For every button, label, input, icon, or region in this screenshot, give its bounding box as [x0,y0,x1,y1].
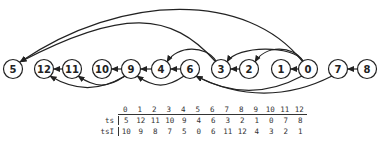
node-6: 6 [181,60,200,79]
node-label: 6 [187,64,194,75]
node-label: 4 [158,64,165,75]
table-cell: 10 [119,127,134,136]
table-cell: 9 [177,116,192,125]
node-label: 1 [278,64,285,75]
table-cell: 2 [279,127,294,136]
table-cell: 12 [235,127,250,136]
node-label: 3 [218,64,225,75]
node-10: 10 [93,60,112,79]
header-cell: 10 [263,105,278,114]
table-cell: 3 [221,116,236,125]
node-label: 7 [335,64,342,75]
node-4: 4 [152,60,171,79]
header-cell: 8 [234,105,249,114]
table-cell: 12 [134,116,149,125]
table-cell: 11 [148,116,163,125]
table-cell: 0 [192,127,207,136]
table-cell: 5 [177,127,192,136]
table-row-ts: ts5121110946321078 [88,115,308,126]
table-cell: 9 [134,127,149,136]
table-cell: 1 [250,116,265,125]
table-cell: 7 [163,127,178,136]
node-label: 5 [10,64,17,75]
table-cell: 6 [206,127,221,136]
graph-diagram: 5121110946321078 [0,0,386,100]
header-cell: 11 [278,105,293,114]
node-11: 11 [63,60,82,79]
table-cell: 11 [221,127,236,136]
node-label: 9 [128,64,135,75]
table-cell: 8 [293,116,308,125]
header-cell: 12 [292,105,307,114]
row-label: tsI [88,127,118,136]
header-cell: 9 [249,105,264,114]
header-cell: 0 [118,105,133,114]
node-label: 10 [95,64,109,75]
node-label: 2 [246,64,253,75]
table-cell: 1 [293,127,308,136]
node-label: 12 [37,64,51,75]
table-header-row: 0123456789101112 [88,104,308,115]
table-cell: 8 [148,127,163,136]
table-cell: 4 [192,116,207,125]
node-0: 0 [299,60,318,79]
header-cell: 6 [205,105,220,114]
node-3: 3 [212,60,231,79]
node-5: 5 [4,60,23,79]
row-label: ts [88,116,118,125]
table-cell: 6 [206,116,221,125]
table-cell: 4 [250,127,265,136]
node-1: 1 [272,60,291,79]
header-cell: 4 [176,105,191,114]
node-12: 12 [35,60,54,79]
header-cell: 2 [147,105,162,114]
table-cell: 7 [279,116,294,125]
node-label: 8 [364,64,371,75]
header-cell: 7 [220,105,235,114]
table-cell: 0 [264,116,279,125]
node-8: 8 [358,60,377,79]
table-row-tsI: tsI1098750611124321 [88,126,308,137]
node-2: 2 [240,60,259,79]
edge-7-to-6 [196,76,332,93]
table-cell: 2 [235,116,250,125]
edge-3-to-5 [20,23,215,62]
table-cell: 5 [119,116,134,125]
node-label: 0 [305,64,312,75]
node-label: 11 [65,64,79,75]
header-cell: 3 [162,105,177,114]
node-9: 9 [122,60,141,79]
table-cell: 3 [264,127,279,136]
edge-0-to-5 [20,9,302,62]
header-cell: 5 [191,105,206,114]
node-7: 7 [329,60,348,79]
header-cell: 1 [133,105,148,114]
table-cell: 10 [163,116,178,125]
ordering-table: 0123456789101112 ts5121110946321078tsI10… [88,104,308,137]
